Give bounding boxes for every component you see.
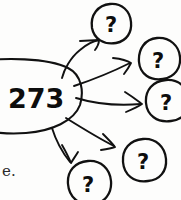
arrow-to-lower-right — [66, 118, 115, 150]
margin-text-fragment: e. — [2, 162, 16, 180]
arrow-to-right — [76, 92, 142, 112]
bubble-lower-right: ? — [123, 139, 166, 181]
arrow-to-right-head — [125, 92, 142, 112]
bubble-upper-right: ? — [139, 38, 180, 79]
arrow-to-top — [62, 40, 99, 78]
source-node-273: 273 — [0, 59, 82, 133]
bubble-right: ? — [146, 80, 181, 121]
arrow-to-upper-right-line — [74, 63, 130, 86]
diagram-canvas: 273 ? — [0, 0, 181, 200]
source-node-label: 273 — [8, 83, 64, 114]
arrow-to-lower-right-line — [66, 118, 114, 146]
bubble-top: ? — [92, 4, 131, 43]
hand-drawn-diagram: 273 ? — [0, 0, 181, 200]
bubble-bottom: ? — [68, 161, 111, 200]
arrow-to-bottom — [52, 128, 78, 163]
bubble-bottom-label: ? — [82, 173, 94, 197]
arrow-to-upper-right — [74, 58, 131, 86]
bubble-upper-right-label: ? — [152, 49, 164, 73]
arrow-to-right-line — [76, 98, 141, 105]
bubble-lower-right-label: ? — [137, 150, 149, 174]
arrow-to-top-line — [62, 40, 99, 78]
bubble-top-label: ? — [105, 13, 117, 37]
bubble-right-label: ? — [160, 91, 172, 115]
